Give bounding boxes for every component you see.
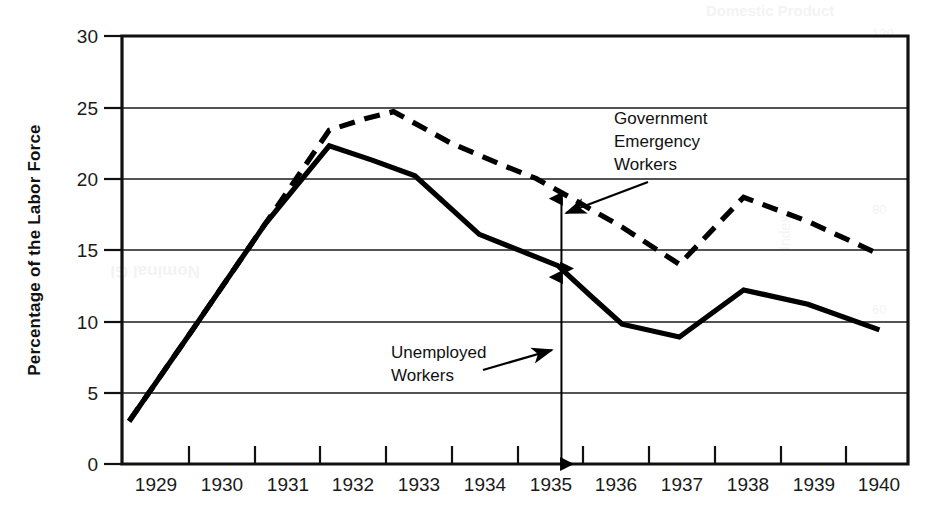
y-tick-label-0: 0 (87, 454, 98, 475)
x-tick-label-1931: 1931 (267, 474, 309, 495)
y-tick-label-20: 20 (77, 169, 98, 190)
svg-text:Nominal GI: Nominal GI (110, 262, 200, 281)
annotation-line-2: Workers (391, 366, 454, 385)
x-tick-label-1929: 1929 (135, 474, 177, 495)
x-tick-label-1935: 1935 (530, 474, 572, 495)
svg-text:60: 60 (872, 302, 886, 317)
x-tick-label-1933: 1933 (398, 474, 440, 495)
annotation-line-2: Emergency (614, 132, 700, 151)
unemployment-line-chart: Domestic Product 120 80 60 Nominal GI In… (0, 0, 942, 517)
svg-text:80: 80 (872, 202, 886, 217)
y-axis-title: Percentage of the Labor Force (25, 124, 44, 375)
annotation-line-1: Government (614, 109, 708, 128)
x-tick-label-1937: 1937 (661, 474, 703, 495)
y-tick-label-25: 25 (77, 98, 98, 119)
y-tick-label-15: 15 (77, 240, 98, 261)
svg-text:Index: Index (777, 216, 793, 250)
annotation-line-3: Workers (614, 155, 677, 174)
x-tick-label-1930: 1930 (201, 474, 243, 495)
x-tick-label-1938: 1938 (727, 474, 769, 495)
svg-text:120: 120 (872, 26, 894, 41)
x-tick-label-1934: 1934 (464, 474, 507, 495)
chart-svg: Domestic Product 120 80 60 Nominal GI In… (0, 0, 942, 517)
x-tick-label-1932: 1932 (332, 474, 374, 495)
x-tick-label-1940: 1940 (858, 474, 900, 495)
y-tick-label-5: 5 (87, 383, 98, 404)
svg-text:Domestic Product: Domestic Product (706, 2, 834, 19)
x-tick-label-1939: 1939 (793, 474, 835, 495)
x-tick-label-1936: 1936 (595, 474, 637, 495)
y-tick-label-10: 10 (77, 312, 98, 333)
y-tick-label-30: 30 (77, 26, 98, 47)
annotation-line-1: Unemployed (391, 343, 486, 362)
chart-background (0, 0, 942, 517)
